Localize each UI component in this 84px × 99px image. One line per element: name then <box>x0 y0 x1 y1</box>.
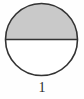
figure-caption-label: 1 <box>0 79 84 99</box>
circle-top-half-shaded <box>6 3 78 39</box>
fraction-figure: 1 <box>0 0 84 99</box>
circle-bottom-half-unshaded <box>6 40 78 76</box>
fraction-circle-svg <box>0 0 84 79</box>
circle-diagram <box>0 0 84 79</box>
